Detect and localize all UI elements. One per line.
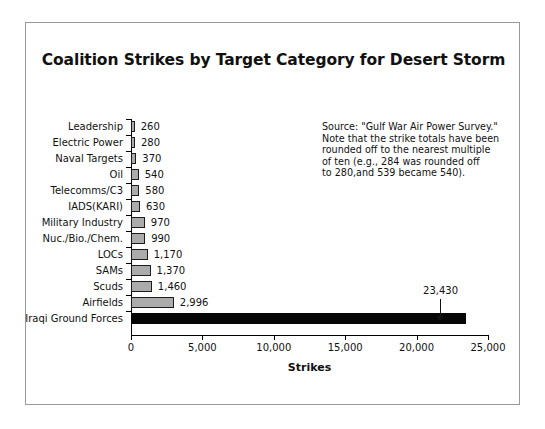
x-axis-tick [131, 335, 132, 340]
x-axis-tick [345, 335, 346, 340]
x-axis-tick [274, 335, 275, 340]
bar-row: LOCs1,170 [131, 247, 488, 263]
bar-row: Electric Power280 [131, 135, 488, 151]
y-axis-tick [126, 231, 131, 232]
x-axis-tick-label: 15,000 [328, 341, 363, 354]
category-label: Telecomms/C3 [50, 184, 123, 198]
y-axis-tick [126, 295, 131, 296]
bar-value-label: 970 [151, 216, 170, 230]
bar-row: Leadership260 [131, 119, 488, 135]
bar-value-label: 1,370 [157, 264, 186, 278]
y-axis-tick [126, 135, 131, 136]
bar [131, 201, 140, 212]
x-axis-tick [417, 335, 418, 340]
bar [131, 185, 139, 196]
x-axis-tick [488, 335, 489, 340]
bar [131, 265, 151, 276]
bar-row: Military Industry970 [131, 215, 488, 231]
figure-frame: Coalition Strikes by Target Category for… [25, 22, 520, 405]
y-axis-tick [126, 263, 131, 264]
bar-value-label: 1,170 [154, 248, 183, 262]
callout-arrow-icon [440, 299, 441, 317]
bar [131, 217, 145, 228]
bar-value-label: 630 [146, 200, 165, 214]
bar-value-label: 540 [145, 168, 164, 182]
y-axis-tick [126, 167, 131, 168]
bar-row: Telecomms/C3580 [131, 183, 488, 199]
y-axis-tick [126, 215, 131, 216]
bar-row: Oil540 [131, 167, 488, 183]
x-axis-tick-label: 25,000 [471, 341, 506, 354]
category-label: Iraqi Ground Forces [25, 312, 123, 326]
bar [131, 169, 139, 180]
bar-value-label: 370 [142, 152, 161, 166]
x-axis-tick-label: 0 [128, 341, 134, 354]
bar-row: Naval Targets370 [131, 151, 488, 167]
bar [131, 233, 145, 244]
x-axis-tick-label: 20,000 [399, 341, 434, 354]
category-label: Naval Targets [55, 152, 123, 166]
bar-value-label: 2,996 [180, 296, 209, 310]
x-axis-tick [202, 335, 203, 340]
category-label: Leadership [68, 120, 123, 134]
x-axis-tick-label: 10,000 [256, 341, 291, 354]
callout-label: 23,430 [401, 284, 481, 297]
category-label: Nuc./Bio./Chem. [43, 232, 123, 246]
bar [131, 281, 152, 292]
bar-value-label: 260 [141, 120, 160, 134]
bar-value-label: 580 [145, 184, 164, 198]
chart-title: Coalition Strikes by Target Category for… [26, 51, 521, 69]
bar-row: SAMs1,370 [131, 263, 488, 279]
category-label: Military Industry [42, 216, 123, 230]
category-label: IADS(KARI) [68, 200, 123, 214]
y-axis-tick [126, 247, 131, 248]
plot-area: Leadership260Electric Power280Naval Targ… [131, 119, 488, 335]
category-label: Scuds [93, 280, 123, 294]
bar-value-label: 280 [141, 136, 160, 150]
bar-row: IADS(KARI)630 [131, 199, 488, 215]
bar [131, 121, 135, 132]
y-axis-tick [126, 311, 131, 312]
y-axis-tick [126, 183, 131, 184]
bar [131, 153, 136, 164]
bar [131, 249, 148, 260]
bar-row: Nuc./Bio./Chem.990 [131, 231, 488, 247]
bar-value-label: 1,460 [158, 280, 187, 294]
category-label: Airfields [82, 296, 123, 310]
x-axis-tick-label: 5,000 [188, 341, 217, 354]
x-axis-title: Strikes [131, 361, 488, 374]
y-axis-tick [126, 279, 131, 280]
category-label: Electric Power [53, 136, 123, 150]
y-axis-tick [126, 151, 131, 152]
bar [131, 137, 135, 148]
y-axis-tick [126, 199, 131, 200]
bar-value-label: 990 [151, 232, 170, 246]
x-axis-line [131, 335, 488, 336]
callout-annotation: 23,430 [401, 284, 481, 324]
category-label: SAMs [96, 264, 123, 278]
bar [131, 297, 174, 308]
y-axis-tick [126, 119, 131, 120]
category-label: LOCs [98, 248, 123, 262]
category-label: Oil [110, 168, 123, 182]
